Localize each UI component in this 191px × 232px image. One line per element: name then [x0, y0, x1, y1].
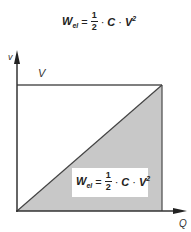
voltage-level-label: V	[38, 67, 45, 79]
formula-c: C	[107, 16, 115, 28]
energy-formula-title: Wel = 1 2 · C · V2	[62, 11, 136, 32]
q-v-diagram	[0, 0, 191, 232]
formula-equals: =	[81, 16, 87, 28]
x-axis-arrow-icon	[173, 208, 187, 214]
y-axis-label: v	[8, 52, 13, 62]
area-energy-formula: Wel = 1 2 · C · V2	[76, 171, 150, 192]
x-axis-label: Q	[179, 218, 187, 229]
formula-fraction: 1 2	[91, 11, 98, 32]
formula-v-squared: V2	[125, 15, 136, 28]
y-axis-arrow-icon	[14, 50, 20, 64]
formula-w: Wel	[62, 15, 78, 29]
